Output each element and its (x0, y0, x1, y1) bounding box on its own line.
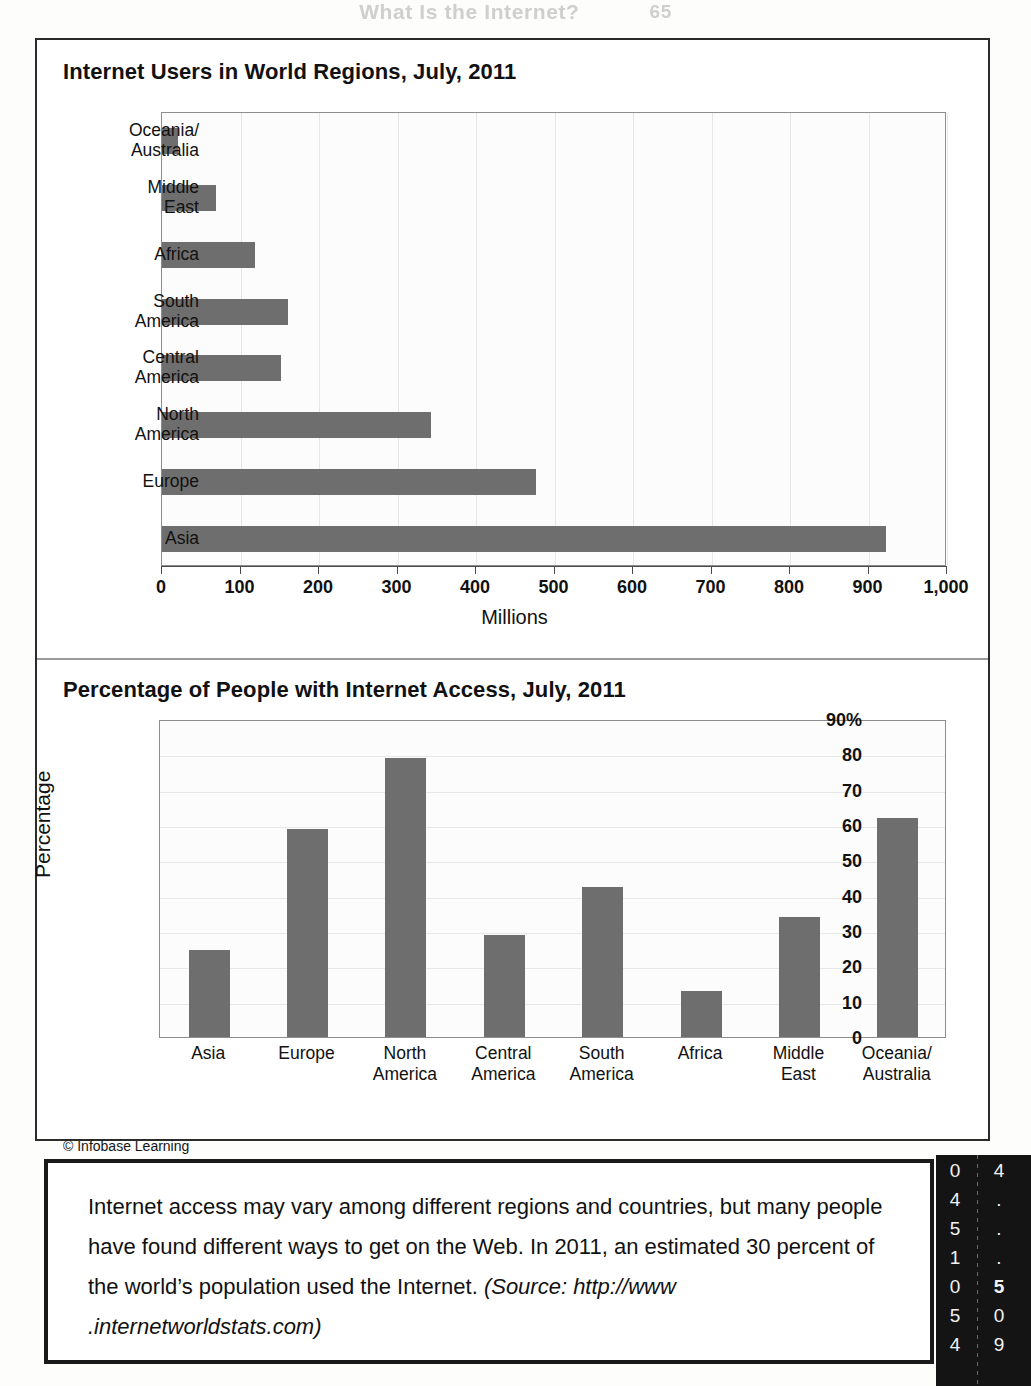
horizontal-bar-plot-area (161, 112, 946, 566)
x-tick-label: 400 (460, 577, 490, 598)
chart-title-bottom: Percentage of People with Internet Acces… (63, 677, 626, 703)
chart-title-top: Internet Users in World Regions, July, 2… (63, 59, 516, 85)
label-line: America (547, 1064, 657, 1085)
x-gridline (947, 113, 948, 565)
bar-category-label: NorthAmerica (350, 1043, 460, 1085)
edge-digit: 9 (994, 1335, 1005, 1355)
x-tick (554, 566, 555, 574)
x-tick (475, 566, 476, 574)
bar-column (455, 721, 553, 1037)
label-line: Central (143, 347, 199, 367)
bar-category-label: Africa (39, 226, 199, 283)
x-tick (946, 566, 947, 574)
bar (582, 887, 623, 1037)
bar-column (849, 721, 947, 1037)
edge-digit: 5 (950, 1219, 961, 1239)
chart-internet-users: Internet Users in World Regions, July, 2… (37, 40, 988, 658)
x-tick-label: 200 (303, 577, 333, 598)
y-tick-label: 30 (842, 922, 862, 943)
y-tick-label: 40 (842, 886, 862, 907)
bar-category-label: Asia (153, 1043, 263, 1064)
bar (162, 469, 536, 495)
label-line: South (547, 1043, 657, 1064)
bar-category-label: Asia (39, 509, 199, 566)
bar-column (652, 721, 750, 1037)
x-tick-label: 300 (381, 577, 411, 598)
bar-column (160, 721, 258, 1037)
bar (162, 412, 431, 438)
bar (385, 758, 426, 1037)
x-tick-label: 700 (695, 577, 725, 598)
label-line: America (135, 311, 199, 331)
label-line: North (350, 1043, 460, 1064)
bar-row (162, 227, 947, 284)
label-line: Oceania/ (129, 120, 199, 140)
label-line: Middle (147, 177, 199, 197)
bar (189, 950, 230, 1037)
bar-row (162, 510, 947, 567)
caption-text: Internet access may vary among different… (88, 1187, 888, 1347)
bar-category-label: Europe (39, 453, 199, 510)
edge-digit: 0 (994, 1306, 1005, 1326)
y-tick-label: 60 (842, 816, 862, 837)
bar-row (162, 170, 947, 227)
bar (162, 526, 886, 552)
x-tick (240, 566, 241, 574)
bar-category-label: SouthAmerica (547, 1043, 657, 1085)
y-tick-label: 70 (842, 780, 862, 801)
edge-digit: . (996, 1248, 1001, 1268)
edge-digit: . (996, 1190, 1001, 1210)
edge-strip-column-1: 0451054 (940, 1161, 970, 1355)
vertical-bar-plot-area (159, 720, 946, 1038)
edge-digit: 4 (950, 1190, 961, 1210)
bar-column (554, 721, 652, 1037)
y-tick-label: 50 (842, 851, 862, 872)
label-line: America (350, 1064, 460, 1085)
edge-digit: 0 (950, 1277, 961, 1297)
edge-strip-column-2: 4...509 (984, 1161, 1014, 1355)
label-line: Europe (252, 1043, 362, 1064)
label-line: Africa (154, 244, 199, 264)
edge-digit: . (996, 1219, 1001, 1239)
label-line: America (448, 1064, 558, 1085)
page-number: 65 (649, 1, 671, 23)
label-line: Australia (131, 140, 199, 160)
x-axis-title: Millions (37, 606, 992, 629)
bar-column (258, 721, 356, 1037)
bar-column (750, 721, 848, 1037)
x-tick (711, 566, 712, 574)
bar-category-label: NorthAmerica (39, 396, 199, 453)
bar-category-label: CentralAmerica (39, 339, 199, 396)
x-tick-label: 0 (156, 577, 166, 598)
bar-category-label: CentralAmerica (448, 1043, 558, 1085)
caption-box: Internet access may vary among different… (44, 1159, 934, 1364)
x-tick-label: 500 (538, 577, 568, 598)
bar-category-label: Africa (645, 1043, 755, 1064)
x-tick (318, 566, 319, 574)
bar-category-label: MiddleEast (743, 1043, 853, 1085)
edge-strip-divider (977, 1155, 978, 1386)
bar-row (162, 454, 947, 511)
running-head-title: What Is the Internet? (359, 0, 579, 24)
bar-category-label: SouthAmerica (39, 282, 199, 339)
label-line: Europe (143, 471, 199, 491)
x-tick (632, 566, 633, 574)
bar (681, 991, 722, 1037)
copyright-credit: © Infobase Learning (63, 1138, 189, 1154)
label-line: Middle (743, 1043, 853, 1064)
bar-row (162, 283, 947, 340)
figure-frame: Internet Users in World Regions, July, 2… (35, 38, 990, 1141)
label-line: America (135, 367, 199, 387)
edge-digit: 0 (950, 1161, 961, 1181)
x-tick (397, 566, 398, 574)
y-axis-title: Percentage (31, 771, 55, 878)
bar-category-label: Oceania/Australia (39, 112, 199, 169)
bar (484, 935, 525, 1037)
x-tick-label: 800 (774, 577, 804, 598)
bar-row (162, 340, 947, 397)
bar (779, 917, 820, 1037)
bar-column (357, 721, 455, 1037)
running-head: What Is the Internet? 65 (0, 0, 1031, 28)
edge-digit: 5 (994, 1277, 1005, 1297)
bar-category-label: Oceania/Australia (842, 1043, 952, 1085)
